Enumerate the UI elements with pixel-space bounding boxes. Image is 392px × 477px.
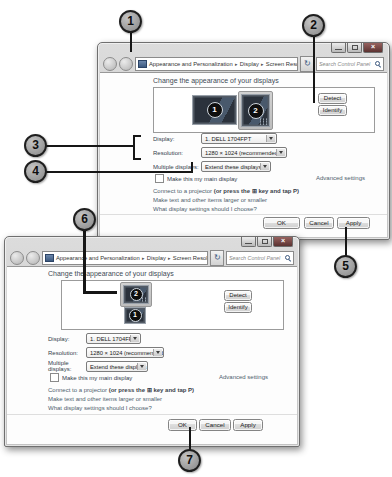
resolution-row: Resolution: 1280 × 1024 (recommended) — [48, 347, 164, 358]
dropdown-arrow-icon[interactable] — [130, 335, 139, 342]
display-dropdown[interactable]: 1. DELL 1704FPT — [201, 133, 277, 144]
close-button[interactable]: × — [363, 43, 383, 53]
callout-3-bracket-bottom — [133, 158, 141, 160]
dropdown-arrow-icon[interactable] — [276, 149, 285, 156]
maximize-button[interactable] — [347, 43, 362, 53]
address-bar: Appearance and Personalization ▸ Display… — [98, 56, 389, 72]
search-placeholder: Search Control Panel — [229, 255, 284, 261]
callout-1: 1 — [119, 10, 142, 33]
text-size-link[interactable]: Make text and other items larger or smal… — [48, 396, 162, 402]
title-bar[interactable]: × — [5, 237, 299, 250]
display-preview-area: 2 1 Detect Identify — [61, 280, 284, 330]
breadcrumb-item[interactable]: Display — [240, 61, 259, 67]
breadcrumb[interactable]: Appearance and Personalization ▸ Display… — [42, 251, 208, 265]
dropdown-arrow-icon[interactable] — [137, 363, 146, 370]
search-input[interactable]: Search Control Panel — [226, 251, 294, 265]
chevron-right-icon: ▸ — [142, 255, 145, 261]
breadcrumb-item[interactable]: Display — [147, 255, 166, 261]
identify-button[interactable]: Identify — [224, 302, 252, 313]
back-button[interactable] — [103, 57, 117, 71]
display-help-link[interactable]: What display settings should I choose? — [48, 405, 152, 411]
taskbar-icons — [259, 118, 268, 125]
advanced-settings-link[interactable]: Advanced settings — [316, 175, 365, 181]
minimize-button[interactable] — [331, 43, 346, 53]
monitor-2-selected[interactable]: 2 — [120, 282, 152, 307]
display-help-link[interactable]: What display settings should I choose? — [153, 206, 257, 212]
refresh-icon[interactable]: ↻ — [210, 250, 224, 266]
callout-3: 3 — [24, 134, 47, 157]
monitor-1[interactable]: 1 — [192, 95, 237, 125]
screen-resolution-window-top: × Appearance and Personalization ▸ Displ… — [97, 42, 390, 240]
breadcrumb[interactable]: Appearance and Personalization ▸ Display… — [135, 57, 298, 71]
cancel-button[interactable]: Cancel — [199, 419, 231, 431]
minimize-button[interactable] — [241, 237, 256, 247]
page-title: Change the appearance of your displays — [48, 270, 174, 277]
search-icon — [285, 255, 291, 261]
callout-4-line — [46, 171, 193, 173]
title-bar[interactable]: × — [98, 43, 389, 56]
dropdown-arrow-icon[interactable] — [266, 135, 275, 142]
main-display-checkbox[interactable] — [155, 174, 164, 183]
multiple-displays-row: Multiple displays: Extend these displays — [48, 360, 148, 372]
close-button[interactable]: × — [273, 237, 293, 247]
callout-4-tick — [191, 162, 193, 173]
display-label: Display: — [48, 336, 86, 342]
detect-button[interactable]: Detect — [224, 290, 252, 301]
chevron-right-icon: ▸ — [235, 61, 238, 67]
main-display-checkbox-label: Make this my main display — [62, 375, 132, 381]
callout-7: 7 — [178, 449, 201, 472]
resolution-label: Resolution: — [153, 150, 201, 156]
apply-button[interactable]: Apply — [337, 217, 370, 229]
monitor-1[interactable]: 1 — [124, 307, 146, 324]
monitor-1-badge: 1 — [207, 102, 223, 118]
search-input[interactable]: Search Control Panel — [316, 57, 384, 71]
multiple-displays-dropdown[interactable]: Extend these displays — [86, 361, 148, 372]
detect-button[interactable]: Detect — [318, 93, 347, 104]
resolution-dropdown[interactable]: 1280 × 1024 (recommended) — [86, 347, 164, 358]
identify-button[interactable]: Identify — [318, 105, 347, 116]
breadcrumb-item[interactable]: Screen Resolution — [266, 61, 298, 67]
monitor-2-selected[interactable]: 2 — [238, 91, 273, 130]
refresh-icon[interactable]: ↻ — [300, 56, 314, 72]
address-bar: Appearance and Personalization ▸ Display… — [5, 250, 299, 266]
forward-button[interactable] — [26, 251, 40, 265]
connect-projector-link[interactable]: Connect to a projector (or press the ⊞ k… — [153, 187, 299, 194]
dropdown-arrow-icon[interactable] — [153, 349, 162, 356]
breadcrumb-item[interactable]: Screen Resolution — [173, 255, 208, 261]
monitor-2[interactable]: 2 — [123, 285, 149, 304]
main-display-checkbox[interactable] — [50, 373, 59, 382]
display-icon — [45, 254, 54, 262]
monitor-2[interactable]: 2 — [241, 94, 270, 127]
back-button[interactable] — [10, 251, 24, 265]
connect-projector-link[interactable]: Connect to a projector (or press the ⊞ k… — [48, 386, 194, 393]
callout-6-line-vertical — [83, 230, 86, 294]
breadcrumb-item[interactable]: Appearance and Personalization — [56, 255, 140, 261]
ok-button[interactable]: OK — [263, 217, 300, 229]
dropdown-arrow-icon[interactable] — [260, 163, 269, 170]
cancel-button[interactable]: Cancel — [304, 217, 334, 229]
breadcrumb-item[interactable]: Appearance and Personalization — [149, 61, 233, 67]
taskbar-icons — [141, 297, 147, 302]
main-display-checkbox-row: Make this my main display — [155, 174, 237, 183]
advanced-settings-link[interactable]: Advanced settings — [219, 374, 268, 380]
resolution-dropdown[interactable]: 1280 × 1024 (recommended) — [201, 147, 287, 158]
callout-1-line — [130, 32, 132, 52]
callout-7-line — [189, 427, 191, 450]
monitor-1-badge: 1 — [129, 309, 142, 322]
display-row: Display: 1. DELL 1704FPT — [153, 133, 277, 144]
apply-button[interactable]: Apply — [233, 419, 263, 431]
display-row: Display: 1. DELL 1704FPT — [48, 333, 141, 344]
ok-button[interactable]: OK — [168, 419, 197, 431]
text-size-link[interactable]: Make text and other items larger or smal… — [153, 197, 267, 203]
callout-2: 2 — [302, 14, 325, 37]
display-dropdown[interactable]: 1. DELL 1704FPT — [86, 333, 141, 344]
callout-3-line — [46, 145, 135, 147]
main-display-checkbox-row: Make this my main display — [50, 373, 132, 382]
footer-divider — [100, 214, 387, 215]
forward-button[interactable] — [119, 57, 133, 71]
display-preview-area: 1 2 Detect Identify — [153, 87, 375, 133]
multiple-displays-dropdown[interactable]: Extend these displays — [201, 161, 271, 172]
monitor-2-badge: 2 — [248, 103, 264, 119]
maximize-button[interactable] — [257, 237, 272, 247]
callout-3-bracket-top — [133, 135, 141, 137]
